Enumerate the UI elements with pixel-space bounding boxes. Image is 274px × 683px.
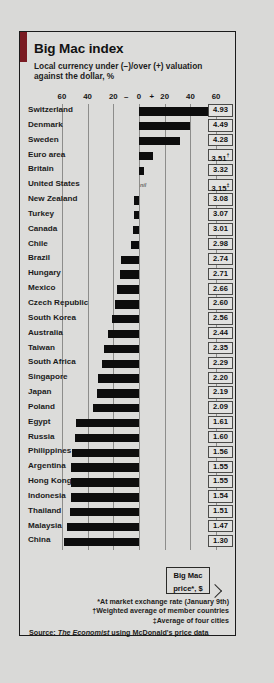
page-root: Big Mac index Local currency under (−)/o…	[0, 0, 274, 683]
price-value-box: 3.01	[208, 223, 233, 235]
axis-tick-label: 60	[58, 92, 67, 101]
country-label: Canada	[28, 224, 100, 233]
country-label: South Africa	[28, 357, 100, 366]
value-bar	[139, 167, 144, 175]
price-value: 1.61	[209, 417, 232, 428]
value-bar	[97, 389, 139, 397]
value-bar	[133, 226, 139, 234]
footnote-marker: ‡	[226, 182, 229, 188]
chart-row: China1.30	[20, 534, 237, 549]
footnotes: *At market exchange rate (January 9th)†W…	[34, 598, 229, 626]
price-value: 2.98	[209, 239, 232, 250]
country-label: Mexico	[28, 283, 100, 292]
price-value: 1.47	[209, 521, 232, 532]
value-bar	[64, 538, 139, 546]
chart-row: Philippines1.56	[20, 445, 237, 460]
source-line: Source: The Economist using McDonald's p…	[29, 628, 229, 637]
price-value: 1.55	[209, 476, 232, 487]
price-value: 1.60	[209, 432, 232, 443]
price-value: 1.51	[209, 506, 232, 517]
axis-tick-label: 20	[109, 92, 118, 101]
chart-row: Japan2.19	[20, 386, 237, 401]
axis-tick-label: 60	[212, 92, 221, 101]
price-value: 2.44	[209, 328, 232, 339]
price-value-box: 2.29	[208, 357, 233, 369]
price-value-box: 2.35	[208, 342, 233, 354]
chart-row: South Korea2.56	[20, 312, 237, 327]
footnote: ‡Average of four cities	[34, 617, 229, 626]
value-bar	[71, 493, 139, 501]
value-bar	[71, 478, 139, 486]
country-label: Japan	[28, 387, 100, 396]
chart-row: Switzerland4.93	[20, 104, 237, 119]
price-value-box: 2.20	[208, 372, 233, 384]
country-label: Taiwan	[28, 343, 100, 352]
value-bar	[104, 345, 139, 353]
value-bar	[71, 463, 139, 471]
value-bar	[76, 419, 139, 427]
value-bar	[72, 449, 139, 457]
value-bar	[139, 107, 219, 115]
price-value-box: 3.08	[208, 193, 233, 205]
value-bar	[67, 523, 139, 531]
price-value-box: 1.60	[208, 431, 233, 443]
price-value-box: 2.19	[208, 386, 233, 398]
footnote: *At market exchange rate (January 9th)	[34, 598, 229, 607]
chart-row: Sweden4.28	[20, 134, 237, 149]
price-value: 3.32	[209, 165, 232, 176]
chart-row: Brazil2.74	[20, 252, 237, 267]
price-value-box: 2.56	[208, 312, 233, 324]
price-value-box: 4.28	[208, 134, 233, 146]
value-bar	[112, 315, 139, 323]
value-bar	[121, 256, 139, 264]
price-value: 4.49	[209, 120, 232, 131]
value-bar	[70, 508, 139, 516]
price-value: 2.09	[209, 402, 232, 413]
big-mac-price-callout: Big Mac price*, $	[166, 567, 210, 594]
chart-row: New Zealand3.08	[20, 193, 237, 208]
axis-tick-label: –	[124, 92, 128, 101]
axis-tick-label: 40	[186, 92, 195, 101]
country-label: Singapore	[28, 372, 100, 381]
price-value-box: 3.32	[208, 164, 233, 176]
chart-row: Poland2.09	[20, 401, 237, 416]
chart-row: Argentina1.55	[20, 460, 237, 475]
price-value-box: 4.49	[208, 119, 233, 131]
price-value: 3.51†	[209, 150, 232, 164]
price-value-box: 4.93	[208, 104, 233, 116]
price-value: 2.20	[209, 373, 232, 384]
value-bar	[117, 285, 139, 293]
price-value-box: 1.56	[208, 446, 233, 458]
price-value-box: 1.55	[208, 461, 233, 473]
value-bar	[75, 434, 139, 442]
price-value: 2.60	[209, 298, 232, 309]
chart-row: South Africa2.29	[20, 356, 237, 371]
callout-line-2: price*, $	[167, 581, 209, 594]
price-value: 2.19	[209, 387, 232, 398]
axis-tick-label: 20	[160, 92, 169, 101]
chart-row: Taiwan2.35	[20, 342, 237, 357]
axis-tick-label: 40	[83, 92, 92, 101]
price-value-box: 1.61	[208, 416, 233, 428]
chart-row: Chile2.98	[20, 238, 237, 253]
callout-pointer-icon	[208, 584, 222, 598]
price-value: 2.71	[209, 269, 232, 280]
chart-row: Thailand1.51	[20, 505, 237, 520]
chart-row: Canada3.01	[20, 223, 237, 238]
price-value-box: 2.44	[208, 327, 233, 339]
value-bar	[120, 270, 139, 278]
chart-row: Egypt1.61	[20, 416, 237, 431]
value-bar	[108, 330, 139, 338]
price-value: 1.54	[209, 491, 232, 502]
value-bar	[98, 374, 139, 382]
value-bar	[139, 152, 153, 160]
chart-plot-area: 604020–0+204060 Switzerland4.93Denmark4.…	[20, 92, 237, 562]
big-mac-index-card: Big Mac index Local currency under (−)/o…	[19, 31, 236, 636]
nil-annotation: nil	[140, 182, 146, 188]
chart-row: Mexico2.66	[20, 282, 237, 297]
price-value: 2.66	[209, 284, 232, 295]
footnote: †Weighted average of member countries	[34, 607, 229, 616]
price-value: 1.56	[209, 447, 232, 458]
value-bar	[139, 137, 180, 145]
country-label: Brazil	[28, 253, 100, 262]
